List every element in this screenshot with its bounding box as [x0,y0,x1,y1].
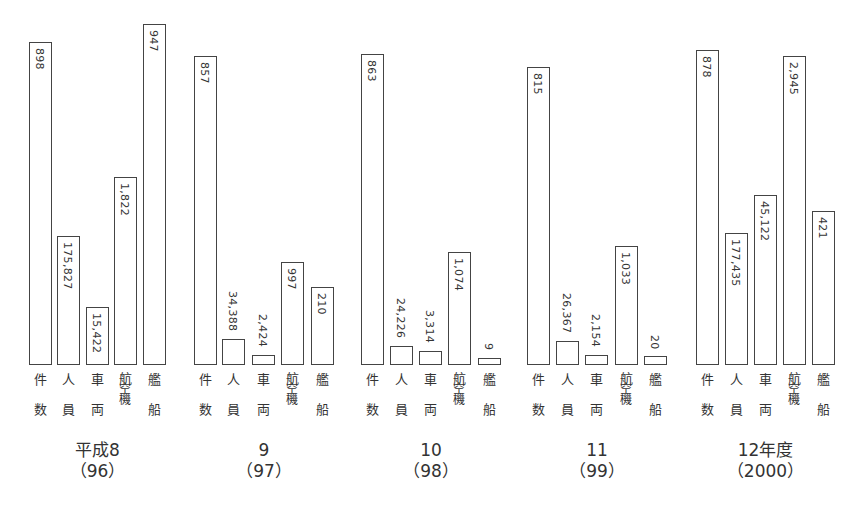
value-label: 863 [366,60,377,82]
group-label-western-year: （99） [527,461,667,482]
category-label-vehicles: 車両 [584,373,608,416]
category-char: 両 [418,403,442,416]
category-char: 件 [28,373,52,386]
category-char: 機 [447,395,471,406]
group-label-year: 9 [194,440,334,461]
group-label-5: 12年度（2000） [696,440,836,482]
category-char: 両 [753,403,777,416]
category-char: 数 [28,403,52,416]
category-char: 機 [280,395,304,406]
category-char: 艦 [477,373,501,386]
group-label-western-year: （98） [361,461,501,482]
bar-count-group-5 [696,50,719,365]
value-label: 1,822 [119,183,130,216]
bar-personnel-group-4 [556,341,579,365]
category-char: 車 [584,373,608,386]
value-label: 2,424 [257,314,268,347]
value-label: 3,314 [424,310,435,343]
category-char: 船 [142,403,166,416]
category-char: 艦 [142,373,166,386]
bar-ships-group-1 [143,24,166,365]
category-char: 艦 [811,373,835,386]
category-label-count: 件数 [193,373,217,416]
value-label: 421 [817,217,828,239]
category-label-count: 件数 [360,373,384,416]
category-char: 数 [526,403,550,416]
bar-personnel-group-3 [390,346,413,365]
category-char: 機 [614,395,638,406]
category-char: 両 [584,403,608,416]
value-label: 815 [532,73,543,95]
category-char: 員 [56,403,80,416]
category-label-aircraft: 航空機 [782,373,806,406]
bar-count-group-3 [361,54,384,365]
value-label: 947 [148,30,159,52]
category-label-count: 件数 [28,373,52,416]
group-label-year: 12年度 [696,440,836,461]
value-label: 175,827 [62,242,73,290]
category-char: 件 [360,373,384,386]
group-label-4: 11（99） [527,440,667,482]
bar-aircraft-group-5 [783,56,806,365]
category-label-personnel: 人員 [221,373,245,416]
value-label: 2,945 [788,62,799,95]
category-char: 艦 [310,373,334,386]
group-label-3: 10（98） [361,440,501,482]
category-char: 数 [695,403,719,416]
value-label: 9 [483,343,494,350]
category-label-personnel: 人員 [555,373,579,416]
bar-vehicles-group-4 [585,355,608,365]
category-label-aircraft: 航空機 [614,373,638,406]
category-char: 船 [477,403,501,416]
bar-ships-group-4 [644,356,667,365]
value-label: 210 [316,293,327,315]
grouped-bar-chart: 898件数175,827人員15,422車両1,822航空機947艦船平成8（9… [0,0,862,513]
value-label: 1,074 [453,258,464,291]
group-label-year: 平成8 [28,440,168,461]
category-label-vehicles: 車両 [418,373,442,416]
bar-count-group-2 [194,56,217,365]
category-label-personnel: 人員 [724,373,748,416]
value-label: 24,226 [395,298,406,338]
category-char: 車 [85,373,109,386]
bar-count-group-1 [29,42,52,365]
category-char: 人 [555,373,579,386]
bar-vehicles-group-3 [419,351,442,365]
category-label-aircraft: 航空機 [447,373,471,406]
value-label: 20 [649,335,660,350]
category-char: 船 [643,403,667,416]
category-char: 船 [811,403,835,416]
category-label-count: 件数 [695,373,719,416]
category-char: 員 [221,403,245,416]
value-label: 2,154 [590,314,601,347]
value-label: 26,367 [561,293,572,333]
value-label: 34,388 [227,291,238,331]
category-label-ships: 艦船 [643,373,667,416]
category-label-vehicles: 車両 [251,373,275,416]
value-label: 1,033 [620,252,631,285]
category-char: 件 [193,373,217,386]
value-label: 997 [286,268,297,290]
category-label-vehicles: 車両 [753,373,777,416]
category-char: 両 [85,403,109,416]
bar-count-group-4 [527,67,550,365]
category-label-ships: 艦船 [310,373,334,416]
category-label-personnel: 人員 [56,373,80,416]
value-label: 177,435 [730,239,741,287]
category-char: 数 [193,403,217,416]
category-label-ships: 艦船 [477,373,501,416]
category-char: 人 [389,373,413,386]
category-char: 員 [389,403,413,416]
category-label-aircraft: 航空機 [113,373,137,406]
category-label-vehicles: 車両 [85,373,109,416]
category-char: 両 [251,403,275,416]
category-char: 員 [555,403,579,416]
group-label-year: 11 [527,440,667,461]
category-char: 船 [310,403,334,416]
category-char: 数 [360,403,384,416]
group-label-western-year: （96） [28,461,168,482]
group-label-western-year: （2000） [696,461,836,482]
category-label-count: 件数 [526,373,550,416]
category-label-ships: 艦船 [811,373,835,416]
category-char: 機 [782,395,806,406]
